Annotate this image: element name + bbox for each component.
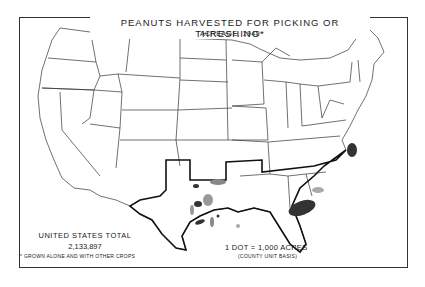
map-subtitle: ACREAGE, 1949: [150, 30, 310, 37]
footnote: * GROWN ALONE AND WITH OTHER CROPS: [20, 253, 135, 259]
total-label: UNITED STATES TOTAL: [30, 231, 140, 240]
peanut-acreage-dots: [190, 143, 357, 228]
southern-region-outline: [130, 150, 346, 252]
legend-basis: (COUNTY UNIT BASIS): [238, 253, 297, 259]
legend-dot-value: 1 DOT = 1,000 ACRES: [225, 243, 307, 252]
total-value: 2,133,897: [30, 242, 140, 251]
